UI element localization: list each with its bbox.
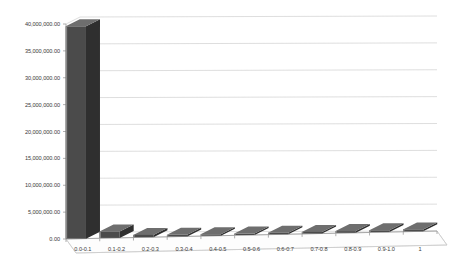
bar-highlight	[234, 234, 235, 235]
y-axis-tick-label: 0.00	[49, 236, 60, 242]
bar-front	[66, 26, 86, 238]
bar-highlight	[403, 229, 404, 231]
bar-highlight	[336, 231, 337, 233]
bar-front	[336, 231, 356, 233]
bar-side	[86, 19, 100, 238]
bar-highlight	[133, 235, 134, 237]
chart-plot-area	[66, 17, 447, 253]
x-axis-tick-label: 0.4-0.5	[209, 246, 226, 252]
chart-container: 0.005,000,000.0010,000,000.0015,000,000.…	[0, 0, 450, 275]
bar-front	[234, 234, 254, 235]
y-axis-tick-label: 10,000,000.00	[25, 182, 60, 188]
y-axis-tick-label: 5,000,000.00	[28, 209, 60, 215]
x-axis-tick-label: 0.7-0.8	[310, 246, 327, 252]
bar-highlight	[302, 232, 303, 234]
y-axis-tick-label: 30,000,000.00	[25, 75, 60, 81]
bar-front	[302, 232, 322, 234]
back-wall	[66, 17, 437, 239]
bar-highlight	[201, 234, 202, 235]
bar-front	[201, 234, 221, 235]
y-axis-ticks	[63, 24, 66, 239]
bar-front	[167, 235, 187, 237]
x-axis-tick-label: 0.5-0.6	[243, 246, 260, 252]
y-axis-tick-labels: 0.005,000,000.0010,000,000.0015,000,000.…	[25, 21, 60, 242]
bar-front	[99, 231, 119, 237]
bar-highlight	[66, 26, 67, 238]
x-axis-tick-label: 0.2-0.3	[142, 246, 159, 252]
y-axis-tick-label: 15,000,000.00	[25, 155, 60, 161]
column-chart-3d: 0.005,000,000.0010,000,000.0015,000,000.…	[0, 0, 450, 275]
x-axis-tick-label: 0.6-0.7	[277, 246, 294, 252]
bar-highlight	[268, 233, 269, 235]
bar-front	[268, 233, 288, 235]
bar-highlight	[99, 231, 100, 237]
y-axis-tick-label: 35,000,000.00	[25, 48, 60, 54]
gridline	[80, 16, 437, 17]
x-axis-tick-label: 0.1-0.2	[108, 246, 125, 252]
y-axis-tick-label: 25,000,000.00	[25, 102, 60, 108]
x-axis-tick-label: 0.3-0.4	[176, 246, 193, 252]
y-axis-tick-label: 40,000,000.00	[25, 21, 60, 27]
y-axis-tick-label: 20,000,000.00	[25, 129, 60, 135]
bar-0.0-0.1[interactable]	[66, 19, 100, 238]
bar-front	[133, 235, 153, 237]
x-axis-tick-label: 0.9-1.0	[378, 246, 395, 252]
x-axis-tick-label: 1	[419, 246, 422, 252]
bar-highlight	[369, 230, 370, 232]
bar-front	[369, 230, 389, 232]
bar-highlight	[167, 235, 168, 237]
x-axis-tick-label: 0.8-0.9	[344, 246, 361, 252]
x-axis-tick-label: 0.0-0.1	[74, 246, 91, 252]
bar-front	[403, 229, 423, 231]
